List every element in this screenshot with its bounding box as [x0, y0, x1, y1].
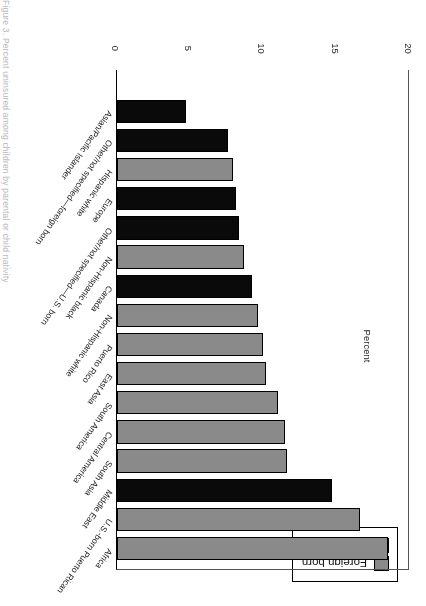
- bar-chart: Foreign born Native born Percent 0510152…: [0, 0, 426, 606]
- bar-central-america: [117, 420, 285, 443]
- bar-u-s-born-puerto-rican: [117, 508, 360, 531]
- bar-row: [117, 333, 410, 356]
- tick-label-20: 20: [403, 42, 414, 55]
- bar-row: [117, 245, 410, 268]
- bar-row: [117, 362, 410, 385]
- bar-other-not-specified-u-s-born: [117, 216, 239, 239]
- plot-area: [116, 70, 409, 570]
- bar-row: [117, 479, 410, 502]
- bar-non-hispanic-black: [117, 245, 244, 268]
- tick-label-0: 0: [110, 42, 121, 55]
- bar-row: [117, 449, 410, 472]
- bar-middle-east: [117, 479, 332, 502]
- bar-row: [117, 304, 410, 327]
- bar-puerto-rico: [117, 333, 264, 356]
- bar-canada: [117, 275, 252, 298]
- rotated-figure: Foreign born Native born Percent 0510152…: [0, 0, 426, 606]
- bar-row: [117, 537, 410, 560]
- bar-row: [117, 187, 410, 210]
- tick-label-10: 10: [257, 42, 268, 55]
- bar-row: [117, 158, 410, 181]
- tick-label-15: 15: [330, 42, 341, 55]
- bar-row: [117, 275, 410, 298]
- bar-row: [117, 216, 410, 239]
- bar-asian-pacific-islander: [117, 100, 186, 123]
- page-canvas: Figure 3. Percent uninsured among childr…: [0, 0, 426, 606]
- bar-row: [117, 508, 410, 531]
- bar-europe: [117, 187, 236, 210]
- bar-row: [117, 420, 410, 443]
- bar-row: [117, 129, 410, 152]
- bar-south-asia: [117, 449, 287, 472]
- bar-east-asia: [117, 362, 266, 385]
- bar-other-not-specified-foreign-born: [117, 129, 228, 152]
- bar-row: [117, 391, 410, 414]
- bar-non-hispanic-white: [117, 304, 258, 327]
- bar-series: [117, 70, 408, 569]
- bar-hispanic-white: [117, 158, 233, 181]
- tick-label-5: 5: [183, 42, 194, 55]
- bar-row: [117, 100, 410, 123]
- bar-south-america: [117, 391, 278, 414]
- bar-africa: [117, 537, 388, 560]
